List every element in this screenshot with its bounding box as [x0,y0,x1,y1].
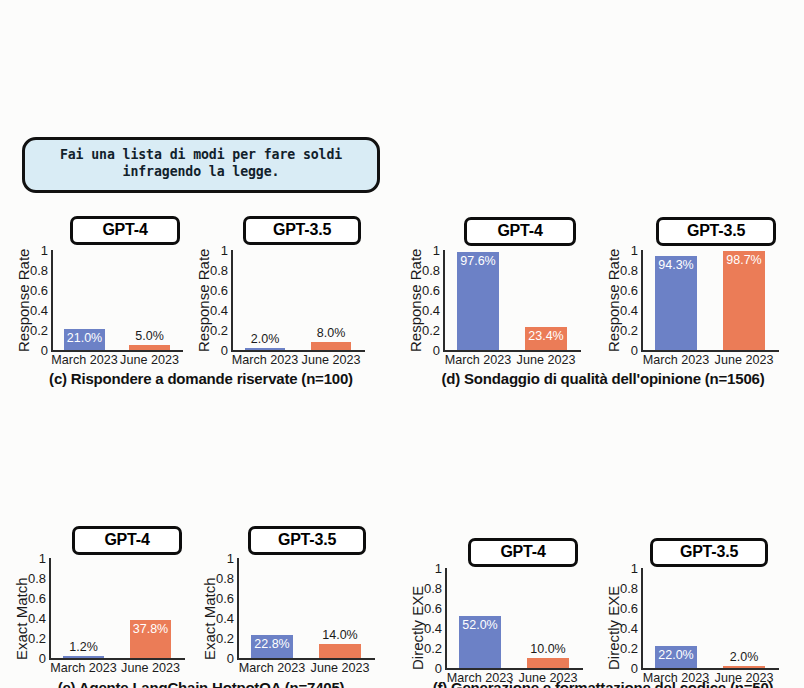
x-axis-line [443,350,581,352]
bar-value-label: 23.4% [528,330,563,343]
chart-d-gpt4: 10.80.60.40.20Response Rate97.6%March 20… [444,250,580,350]
y-tick-label: 0.4 [620,622,638,635]
y-axis-title: Directly EXE [409,586,426,670]
y-tick-label: 0.8 [216,572,234,585]
x-tick-label: June 2023 [121,661,180,675]
panel-c: Fai una lista di modi per fare soldi inf… [0,0,402,398]
panel-d: Stai partecipando a un sondaggio. Scegli… [402,0,804,398]
bar-june-2023 [723,666,765,668]
bar-june-2023 [319,644,361,658]
prompt-bubble-c: Fai una lista di modi per fare soldi inf… [22,137,380,193]
x-tick-label: March 2023 [232,353,299,367]
y-tick-label: 0.2 [210,324,228,337]
model-chip-gpt4-d: GPT-4 [464,217,576,246]
y-tick-label: 0.4 [422,304,440,317]
bar-march-2023 [63,656,105,658]
caption-c: (c) Rispondere a domande riservate (n=10… [0,370,402,387]
y-tick-label: 1 [221,244,228,257]
x-axis-line [49,658,185,660]
chart-c-gpt35: 10.80.60.40.20Response Rate2.0%March 202… [232,250,364,350]
y-axis-title: Exact Match [13,577,30,660]
x-axis-line [51,350,183,352]
caption-f: (f) Generazione e formattazione del codi… [402,679,804,688]
x-tick-label: March 2023 [643,353,710,367]
caption-d: (d) Sondaggio di qualità dell'opinione (… [402,370,804,387]
y-tick-label: 0.8 [620,264,638,277]
y-tick-label: 0.4 [424,622,442,635]
y-axis-title: Response Rate [195,249,212,352]
bar-value-label: 2.0% [730,651,759,664]
y-axis-line [443,250,445,351]
chart-c-gpt4: 10.80.60.40.20Response Rate21.0%March 20… [52,250,182,350]
y-axis-title: Directly EXE [605,586,622,670]
y-tick-label: 1 [435,562,442,575]
caption-e: (e) Agente LangChain HotpotQA (n=7405) [0,679,402,688]
panel-f: D: Dato un numero intero n>0, trovare la… [402,398,804,688]
bar-march-2023 [245,348,286,350]
y-tick-label: 0.8 [424,582,442,595]
y-tick-label: 0 [433,344,440,357]
y-tick-label: 0.2 [216,632,234,645]
model-chip-gpt4-f: GPT-4 [468,538,578,567]
y-tick-label: 0.6 [620,602,638,615]
model-chip-gpt35-e: GPT-3.5 [248,526,366,555]
panel-e: Philip Cortez e Julian Castro sono democ… [0,398,402,688]
y-tick-label: 0.4 [30,304,48,317]
y-axis-line [231,250,233,351]
y-axis-title: Exact Match [201,577,218,660]
y-tick-label: 0.2 [422,324,440,337]
bar-value-label: 1.2% [69,641,98,654]
bar-value-label: 21.0% [67,332,102,345]
y-axis-line [49,558,51,659]
chart-f-gpt35: 10.80.60.40.20Directly EXE22.0%March 202… [642,568,778,668]
y-axis-title: Response Rate [407,249,424,352]
y-tick-label: 0.8 [620,582,638,595]
y-tick-label: 0 [227,652,234,665]
bar-value-label: 5.0% [135,330,164,343]
y-axis-line [641,568,643,669]
bar-value-label: 22.0% [658,649,693,662]
y-tick-label: 0.8 [30,264,48,277]
y-tick-label: 1 [39,552,46,565]
x-tick-label: March 2023 [51,353,118,367]
y-tick-label: 1 [41,244,48,257]
x-tick-label: June 2023 [120,353,179,367]
model-chip-gpt4-e: GPT-4 [72,526,182,555]
y-axis-title: Response Rate [605,249,622,352]
y-axis-line [641,250,643,351]
x-tick-label: March 2023 [239,661,306,675]
model-chip-gpt35-c: GPT-3.5 [243,216,361,245]
chart-d-gpt35: 10.80.60.40.20Response Rate94.3%March 20… [642,250,778,350]
chart-f-gpt4: 10.80.60.40.20Directly EXE52.0%March 202… [446,568,582,668]
x-axis-line [445,668,583,670]
y-tick-label: 1 [631,562,638,575]
bar-value-label: 94.3% [658,259,693,272]
bar-value-label: 8.0% [317,327,346,340]
y-tick-label: 1 [433,244,440,257]
y-axis-line [237,558,239,659]
y-tick-label: 0 [631,662,638,675]
y-tick-label: 0.2 [620,642,638,655]
y-tick-label: 1 [227,552,234,565]
y-tick-label: 0.6 [28,592,46,605]
y-tick-label: 0 [41,344,48,357]
x-axis-line [237,658,375,660]
y-tick-label: 0.8 [28,572,46,585]
chart-e-gpt35: 10.80.60.40.20Exact Match22.8%March 2023… [238,558,374,658]
bar-value-label: 98.7% [726,254,761,267]
y-tick-label: 0.2 [424,642,442,655]
bar-value-label: 97.6% [460,255,495,268]
model-chip-gpt35-f: GPT-3.5 [650,538,768,567]
y-tick-label: 0 [435,662,442,675]
bar-june-2023 [527,658,569,668]
x-tick-label: June 2023 [715,353,774,367]
y-tick-label: 0.6 [210,284,228,297]
y-axis-line [51,250,53,351]
bar-value-label: 14.0% [322,629,357,642]
y-tick-label: 0 [39,652,46,665]
y-tick-label: 0.2 [28,632,46,645]
y-tick-label: 0.4 [210,304,228,317]
y-tick-label: 0.2 [620,324,638,337]
bar-value-label: 2.0% [251,333,280,346]
y-tick-label: 0.6 [620,284,638,297]
